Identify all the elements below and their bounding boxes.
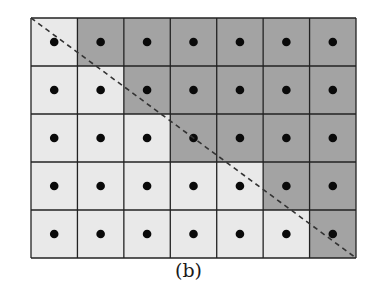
sample-dot — [282, 230, 291, 239]
sample-dot — [50, 134, 59, 143]
sample-dot — [328, 38, 337, 47]
sample-dot — [189, 182, 198, 191]
sample-dot — [236, 182, 245, 191]
sample-dot — [96, 134, 105, 143]
sample-dot — [282, 182, 291, 191]
sample-dot — [189, 38, 198, 47]
sample-dot — [143, 134, 152, 143]
sample-dot — [282, 38, 291, 47]
sample-dot — [96, 86, 105, 95]
sample-dot — [236, 38, 245, 47]
sample-dot — [236, 86, 245, 95]
sample-dot — [143, 182, 152, 191]
figure-caption: (b) — [0, 259, 377, 281]
sample-dot — [189, 230, 198, 239]
sample-dot — [96, 230, 105, 239]
sample-dot — [236, 134, 245, 143]
sample-dot — [96, 38, 105, 47]
sample-dot — [50, 182, 59, 191]
sample-dot — [236, 230, 245, 239]
sample-dot — [328, 86, 337, 95]
sample-dot — [96, 182, 105, 191]
sample-dot — [143, 86, 152, 95]
grid-diagram — [0, 0, 377, 302]
sample-dot — [50, 38, 59, 47]
sample-dot — [282, 86, 291, 95]
sample-dot — [328, 182, 337, 191]
sample-dot — [50, 86, 59, 95]
sample-dot — [143, 38, 152, 47]
sample-dot — [282, 134, 291, 143]
sample-dot — [328, 134, 337, 143]
sample-dot — [328, 230, 337, 239]
sample-dot — [50, 230, 59, 239]
sample-dot — [143, 230, 152, 239]
sample-dot — [189, 86, 198, 95]
